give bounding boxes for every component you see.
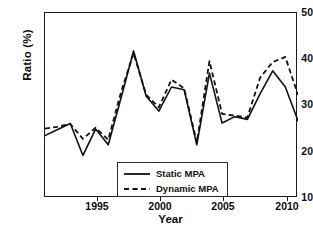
chart-figure: 50 40 30 20 10 Ratio (%) 1995 2000 2005 … [0,0,313,234]
legend-swatch-solid-icon [123,169,151,179]
legend-label-dynamic: Dynamic MPA [156,183,219,194]
x-tick-label-2010: 2010 [265,200,309,212]
y-axis-label-wrap: Ratio (%) [21,0,35,110]
series-line-static-mpa [45,51,298,156]
x-axis-label: Year [44,213,297,225]
series-line-dynamic-mpa [45,53,298,142]
x-tick-label-2000: 2000 [138,200,182,212]
legend-entry-static: Static MPA [123,166,222,181]
legend-entry-dynamic: Dynamic MPA [123,181,222,196]
x-tick-label-1995: 1995 [75,200,119,212]
legend-label-static: Static MPA [156,168,205,179]
y-axis-label: Ratio (%) [21,0,33,110]
legend-swatch-dashed-icon [123,184,151,194]
x-tick-label-2005: 2005 [201,200,245,212]
chart-legend: Static MPA Dynamic MPA [117,162,228,197]
